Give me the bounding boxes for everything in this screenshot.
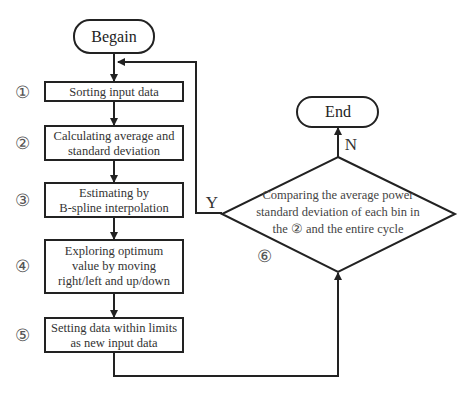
step-5-number: ⑤ — [15, 326, 30, 345]
end-label: End — [325, 103, 351, 120]
step-2-number: ② — [15, 134, 30, 153]
step-1-number: ① — [15, 83, 30, 102]
step-4-line-2: value by moving — [72, 259, 157, 273]
start-terminal: Begain — [74, 20, 154, 53]
step-4-line-3: right/left and up/down — [58, 274, 171, 288]
step-5-box: Setting data within limits as new input … — [45, 318, 183, 352]
step-3-box: Estimating by B-spline interpolation — [45, 183, 183, 217]
step-2-line-1: Calculating average and — [54, 129, 176, 143]
flowchart-canvas: Begain Sorting input data ① Calculating … — [0, 0, 475, 397]
step-4-box: Exploring optimum value by moving right/… — [45, 240, 183, 293]
decision-number: ⑥ — [257, 247, 272, 266]
end-terminal: End — [297, 97, 378, 127]
no-label: N — [345, 135, 357, 154]
start-label: Begain — [91, 28, 136, 46]
step-2-box: Calculating average and standard deviati… — [45, 126, 183, 160]
step-3-number: ③ — [15, 191, 30, 210]
yes-label: Y — [206, 193, 218, 212]
step-1-line-1: Sorting input data — [69, 85, 159, 99]
decision-line-1: Comparing the average power — [263, 188, 415, 202]
step-2-line-2: standard deviation — [68, 144, 161, 158]
step-4-line-1: Exploring optimum — [65, 244, 164, 258]
step-4-number: ④ — [15, 257, 30, 276]
step-5-line-1: Setting data within limits — [51, 321, 177, 335]
step-3-line-1: Estimating by — [79, 186, 150, 200]
step-3-line-2: B-spline interpolation — [59, 201, 169, 215]
step-5-line-2: as new input data — [70, 336, 158, 350]
decision-line-3: the ② and the entire cycle — [272, 222, 403, 236]
step-1-box: Sorting input data — [45, 82, 183, 101]
decision-line-2: standard deviation of each bin in — [256, 205, 420, 219]
